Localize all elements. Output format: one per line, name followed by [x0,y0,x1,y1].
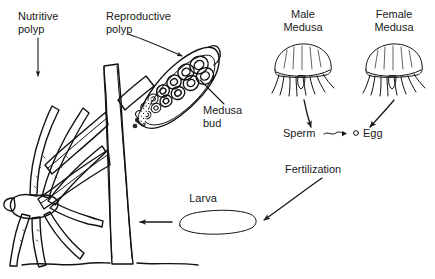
fertilization-label: Fertilization [285,163,341,175]
medusa-bud-label-line2: bud [203,117,221,129]
sperm-label: Sperm [283,127,315,139]
jellyfish-icon-female [363,44,425,96]
planula-larva-icon [180,210,256,234]
life-cycle-diagram: Nutritive polyp Reproductive polyp Medus… [0,0,435,279]
reproductive-polyp-label-line2: polyp [106,23,132,35]
reproductive-polyp-label-line1: Reproductive [106,10,171,22]
male-medusa-label-line2: Medusa [283,21,323,33]
egg-label: Egg [363,127,383,139]
male-medusa-to-sperm-arrow [304,100,311,127]
medusa-bud-label-line1: Medusa [203,104,243,116]
jellyfish-icon-male [272,44,334,96]
female-medusa-to-egg-arrow [370,100,394,127]
substrate-line-icon [22,263,198,265]
female-medusa-label-line2: Medusa [374,21,414,33]
fertilization-to-larva-arrow [264,178,322,220]
larva-label: Larva [189,192,217,204]
reproductive-polyp-leader [128,34,182,56]
male-medusa-label-line1: Male [291,8,315,20]
nutritive-polyp-label-line1: Nutritive [18,10,58,22]
female-medusa-label-line1: Female [376,8,413,20]
nutritive-polyp-label-line2: polyp [18,23,44,35]
egg-circle-icon [354,131,359,136]
diagram-canvas: Nutritive polyp Reproductive polyp Medus… [0,0,435,279]
sperm-squiggle-icon [324,131,347,136]
